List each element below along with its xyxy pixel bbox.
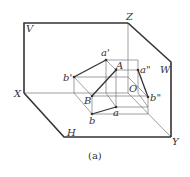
label-v-plane: V (26, 23, 35, 34)
w-plane-frame (128, 23, 171, 137)
projection-planes (24, 23, 171, 137)
label-origin: O (129, 83, 137, 94)
label-a-front: a' (101, 47, 110, 58)
front-projection-ab (74, 60, 106, 77)
label-x-axis: X (13, 88, 22, 99)
label-h-plane: H (66, 127, 76, 138)
label-z-axis: Z (125, 11, 134, 22)
label-point-b: B (83, 95, 91, 106)
figure-caption: (a) (88, 150, 102, 161)
label-w-plane: W (160, 64, 171, 75)
label-b-front: b' (63, 72, 72, 83)
label-b-top: b (89, 115, 95, 126)
label-y-axis: Y (172, 136, 180, 147)
construction-lines (24, 23, 171, 137)
label-b-side: b" (150, 92, 161, 103)
h-plane-frame (24, 93, 171, 137)
label-point-a: A (115, 60, 123, 71)
labels: V Z W X O H Y a' A a" b' B a b b" (a) (13, 11, 180, 161)
label-a-side: a" (140, 64, 151, 75)
label-a-top: a (113, 107, 119, 118)
v-plane-frame (24, 23, 128, 93)
segment-ab (92, 70, 116, 96)
projection-diagram: V Z W X O H Y a' A a" b' B a b b" (a) (0, 0, 190, 177)
